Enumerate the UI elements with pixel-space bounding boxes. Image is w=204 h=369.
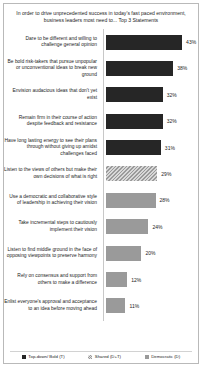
bar-rows: Dare to be different and willing to chal… [4,29,198,319]
bar-democratic [106,219,148,234]
bar-topdown [106,140,161,155]
bar-value-label: 28% [160,197,170,203]
bar-category-label: Be bold risk-takers that pursue unpopula… [4,59,101,79]
bar-row: Remain firm in their course of action de… [4,108,198,134]
bar-category-label: Listen to find middle ground in the face… [4,247,101,260]
bar-track: 11% [101,293,198,319]
bar-topdown [106,35,182,50]
legend-label: Shared (D+T) [95,354,121,359]
bar-category-label: Listen to the views of others but make t… [4,167,101,180]
bar-value-label: 43% [186,39,196,45]
bar-value-label: 31% [165,145,175,151]
bar-value-label: 29% [161,171,171,177]
bar-topdown [106,87,163,102]
legend-swatch-icon [22,355,26,359]
bar-track: 32% [101,108,198,134]
bar-democratic [106,298,125,313]
bar-row: Listen to the views of others but make t… [4,161,198,187]
bar-value-label: 24% [152,224,162,230]
bar-topdown [106,61,173,76]
legend-swatch-icon [88,355,92,359]
bar-row: Dare to be different and willing to chal… [4,29,198,55]
chart-legend: Top-down/ Bold (T)Shared (D+T)Democratic… [4,354,198,359]
bar-category-label: Rely on consensus and support from other… [4,273,101,286]
bar-track: 20% [101,240,198,266]
bar-track: 28% [101,187,198,213]
bar-category-label: Envision audacious ideas that don't yet … [4,88,101,101]
legend-item-topdown[interactable]: Top-down/ Bold (T) [22,354,65,359]
chart-container: In order to drive unprecedented success … [3,3,199,364]
bar-track: 38% [101,55,198,81]
chart-title: In order to drive unprecedented success … [12,10,190,25]
bar-track: 43% [101,29,198,55]
bar-democratic [106,246,141,261]
bar-value-label: 32% [167,92,177,98]
bar-topdown [106,114,163,129]
bar-track: 31% [101,134,198,160]
bar-row: Rely on consensus and support from other… [4,266,198,292]
bar-value-label: 32% [167,118,177,124]
bar-value-label: 38% [177,65,187,71]
bar-category-label: Use a democratic and collaborative style… [4,194,101,207]
bar-category-label: Have long lasting energy to see their pl… [4,138,101,158]
bar-track: 32% [101,82,198,108]
bar-track: 24% [101,214,198,240]
bar-democratic [106,272,127,287]
bar-category-label: Take incremental steps to cautiously imp… [4,220,101,233]
bar-value-label: 11% [129,303,139,309]
bar-category-label: Enlist everyone's approval and acceptanc… [4,299,101,312]
bar-value-label: 12% [131,277,141,283]
bar-democratic [106,193,156,208]
bar-row: Enlist everyone's approval and acceptanc… [4,293,198,319]
legend-label: Top-down/ Bold (T) [28,354,64,359]
bar-category-label: Dare to be different and willing to chal… [4,36,101,49]
legend-item-democratic[interactable]: Democratic (D) [145,354,180,359]
bar-track: 12% [101,266,198,292]
bar-row: Be bold risk-takers that pursue unpopula… [4,55,198,81]
bar-track: 29% [101,161,198,187]
bar-category-label: Remain firm in their course of action de… [4,115,101,128]
legend-swatch-icon [145,355,149,359]
bar-shared [106,166,157,181]
bar-row: Take incremental steps to cautiously imp… [4,214,198,240]
bar-row: Have long lasting energy to see their pl… [4,134,198,160]
bar-row: Listen to find middle ground in the face… [4,240,198,266]
legend-item-shared[interactable]: Shared (D+T) [88,354,121,359]
legend-label: Democratic (D) [151,354,180,359]
bar-value-label: 20% [145,250,155,256]
bar-row: Envision audacious ideas that don't yet … [4,82,198,108]
bar-row: Use a democratic and collaborative style… [4,187,198,213]
plot-area: Dare to be different and willing to chal… [4,29,198,325]
